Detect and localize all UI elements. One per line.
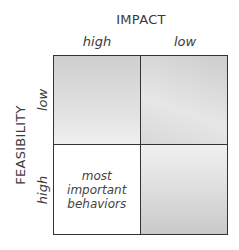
cell-low-impact-high-feasibility — [141, 145, 228, 234]
cell-high-impact-high-feasibility: most important behaviors — [54, 145, 141, 234]
cell-high-impact-low-feasibility — [54, 56, 141, 145]
cell-text-line: behaviors — [67, 197, 126, 211]
cell-text-line: important — [67, 183, 126, 197]
most-important-behaviors-label: most important behaviors — [67, 169, 126, 211]
impact-feasibility-matrix: most important behaviors — [53, 55, 228, 235]
row-label-low: low — [35, 89, 50, 111]
cell-low-impact-low-feasibility — [141, 56, 228, 145]
y-axis-title: FEASIBILITY — [13, 105, 28, 185]
column-label-high: high — [53, 34, 141, 49]
column-label-low: low — [141, 34, 229, 49]
cell-text-line: most — [67, 169, 126, 183]
x-axis-title: IMPACT — [53, 12, 229, 27]
row-label-high: high — [35, 176, 50, 204]
